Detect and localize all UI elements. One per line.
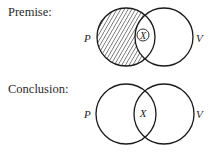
conclusion-label-p: P [83,108,91,120]
venn-diagrams: X P V X P V [0,0,212,155]
conclusion-label-v: V [196,108,204,120]
conclusion-x-marker: X [139,107,148,119]
premise-label-v: V [196,32,204,44]
premise-venn: X P V [83,8,204,66]
premise-x-marker: X [139,30,147,41]
conclusion-circle-p [96,84,156,144]
conclusion-venn: X P V [83,84,204,144]
premise-label-p: P [83,32,91,44]
